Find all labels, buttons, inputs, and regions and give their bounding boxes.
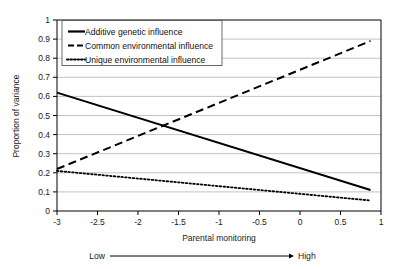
y-tick-label-2: 0.2 (38, 168, 50, 178)
y-tick-label-0: 0 (45, 206, 50, 216)
x-tick-label-0: -3 (53, 217, 61, 227)
x-tick-label-8: 1 (379, 217, 384, 227)
x-tick-label-2: -2 (134, 217, 142, 227)
x-axis-title: Parental monitoring (182, 233, 256, 243)
x-tick-label-4: -1 (215, 217, 223, 227)
chart-svg: 1 0.9 0.8 0.7 0.6 0.5 0.4 0.3 0.2 0.1 0 (0, 0, 404, 269)
chart-container: 1 0.9 0.8 0.7 0.6 0.5 0.4 0.3 0.2 0.1 0 (0, 0, 404, 269)
y-tick-label-8: 0.8 (38, 53, 50, 63)
y-tick-label-9: 0.9 (38, 34, 50, 44)
legend-item-additive-genetic-influence[interactable]: Additive genetic influence (68, 27, 183, 37)
annotation-label-low: Low (89, 251, 106, 261)
legend: Additive genetic influence Common enviro… (62, 21, 222, 66)
annotation-label-high: High (298, 251, 316, 261)
legend-item-common-environmental-influence[interactable]: Common environmental influence (68, 41, 213, 51)
legend-label-unique-environmental-influence: Unique environmental influence (85, 55, 206, 65)
y-tick-label-6: 0.6 (38, 91, 50, 101)
x-tick-label-7: 0.5 (335, 217, 347, 227)
x-tick-label-3: -1.5 (171, 217, 186, 227)
y-tick-label-10: 1 (45, 15, 50, 25)
y-tick-label-5: 0.5 (38, 111, 50, 121)
y-axis-title: Proportion of variance (11, 74, 21, 157)
y-tick-label-4: 0.4 (38, 130, 50, 140)
legend-label-additive-genetic-influence: Additive genetic influence (85, 27, 183, 37)
y-tick-label-7: 0.7 (38, 72, 50, 82)
x-tick-label-6: 0 (298, 217, 303, 227)
x-tick-label-5: -0.5 (252, 217, 267, 227)
y-tick-label-1: 0.1 (38, 187, 50, 197)
x-axis-tick-labels: -3 -2.5 -2 -1.5 -1 -0.5 0 0.5 1 (53, 217, 383, 227)
y-tick-label-3: 0.3 (38, 149, 50, 159)
legend-label-common-environmental-influence: Common environmental influence (85, 41, 213, 51)
legend-item-unique-environmental-influence[interactable]: Unique environmental influence (67, 55, 206, 65)
x-tick-label-1: -2.5 (90, 217, 105, 227)
